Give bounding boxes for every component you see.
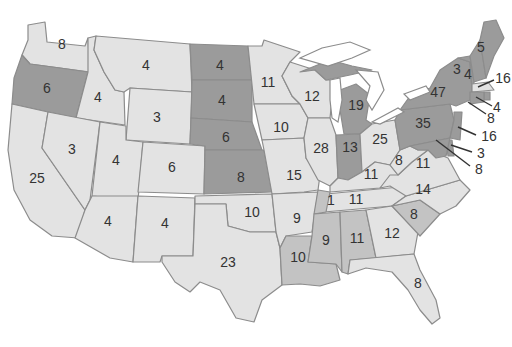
label-vt: 3	[453, 61, 461, 77]
label-ne: 6	[222, 129, 230, 145]
label-ks: 8	[237, 169, 245, 185]
lake-michigan	[330, 78, 342, 122]
label-wi: 12	[304, 88, 320, 104]
label-co: 6	[168, 159, 176, 175]
label-ok: 10	[244, 204, 260, 220]
label-il: 28	[313, 140, 329, 156]
label-nv: 3	[68, 141, 76, 157]
label-mn: 11	[261, 74, 276, 90]
state-ri	[484, 92, 490, 100]
map-svg: 8 6 25 4 3 4 3 4 6 4 4 4 4 6 8 10 23 11 …	[0, 0, 512, 347]
label-tn-split: 1	[327, 192, 335, 208]
label-or: 6	[43, 80, 51, 96]
label-ca: 25	[29, 170, 45, 186]
label-nd: 4	[216, 57, 224, 73]
label-mo: 15	[286, 167, 302, 183]
label-nh: 4	[464, 66, 472, 82]
label-in: 13	[342, 139, 358, 155]
label-ky: 11	[364, 166, 379, 182]
label-la: 10	[290, 249, 306, 265]
label-ms: 9	[322, 232, 330, 248]
leader-de	[451, 145, 472, 152]
label-sc: 8	[410, 206, 418, 222]
label-me: 5	[477, 39, 485, 55]
label-de: 3	[477, 145, 485, 161]
label-ar: 9	[293, 210, 301, 226]
label-id: 4	[94, 89, 102, 105]
label-ia: 10	[273, 119, 289, 135]
label-ut: 4	[112, 152, 120, 168]
label-tn: 11	[349, 191, 364, 207]
label-wv: 8	[395, 152, 403, 168]
label-mt: 4	[142, 57, 150, 73]
label-tx: 23	[220, 254, 236, 270]
state-ma	[472, 82, 494, 92]
lake-superior	[300, 42, 370, 66]
label-mi: 19	[348, 97, 364, 113]
label-wy: 3	[153, 109, 161, 125]
label-al: 11	[350, 230, 365, 246]
label-az: 4	[104, 213, 112, 229]
label-va: 11	[416, 155, 431, 171]
leader-ct	[468, 102, 486, 114]
label-oh: 25	[372, 131, 388, 147]
label-ny: 47	[430, 84, 446, 100]
label-nj: 16	[481, 128, 497, 144]
label-nm: 4	[161, 215, 169, 231]
label-ct: 8	[487, 110, 495, 126]
state-fl	[348, 254, 440, 324]
label-pa: 35	[415, 115, 431, 131]
label-wa: 8	[58, 36, 66, 52]
label-sd: 4	[218, 92, 226, 108]
label-fl: 8	[414, 275, 422, 291]
label-md: 8	[475, 161, 483, 177]
label-nc: 14	[415, 181, 431, 197]
label-ma: 16	[495, 70, 511, 86]
us-electoral-map: 8 6 25 4 3 4 3 4 6 4 4 4 4 6 8 10 23 11 …	[0, 0, 512, 347]
label-ga: 12	[384, 225, 400, 241]
